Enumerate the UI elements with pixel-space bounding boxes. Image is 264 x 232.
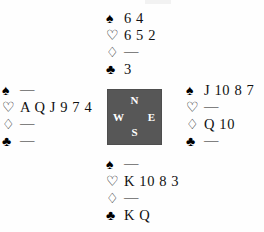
scan-artifact (145, 0, 171, 4)
spade-icon: ♠ (2, 84, 16, 98)
west-diamonds-row: ♢ — (2, 116, 92, 133)
east-diamonds-cards: Q 10 (200, 117, 235, 132)
east-diamonds-row: ♢ Q 10 (186, 116, 254, 133)
diamond-icon: ♢ (2, 118, 16, 132)
east-hearts-row: ♡ — (186, 99, 254, 116)
north-hearts-row: ♡ 6 5 2 (106, 27, 156, 44)
hand-south: ♠ — ♡ K 10 8 3 ♢ — ♣ K Q (106, 156, 179, 224)
south-hearts-cards: K 10 8 3 (120, 174, 179, 189)
north-clubs-row: ♣ 3 (106, 61, 156, 78)
north-clubs-cards: 3 (120, 62, 132, 77)
compass-label-east: E (148, 112, 155, 123)
east-clubs-cards: — (200, 133, 219, 148)
west-diamonds-cards: — (16, 116, 35, 131)
south-diamonds-row: ♢ — (106, 190, 179, 207)
west-spades-row: ♠ — (2, 82, 92, 99)
bridge-deal-diagram: ♠ 6 4 ♡ 6 5 2 ♢ — ♣ 3 ♠ — ♡ A Q J 9 7 4 … (0, 0, 264, 232)
north-spades-row: ♠ 6 4 (106, 10, 156, 27)
east-clubs-row: ♣ — (186, 133, 254, 150)
west-hearts-row: ♡ A Q J 9 7 4 (2, 99, 92, 116)
hand-east: ♠ J 10 8 7 ♡ — ♢ Q 10 ♣ — (186, 82, 254, 150)
north-hearts-cards: 6 5 2 (120, 28, 156, 43)
south-spades-cards: — (120, 156, 139, 171)
diamond-icon: ♢ (106, 46, 120, 60)
heart-icon: ♡ (106, 29, 120, 43)
south-diamonds-cards: — (120, 190, 139, 205)
west-clubs-row: ♣ — (2, 133, 92, 150)
compass-label-north: N (131, 95, 139, 106)
south-hearts-row: ♡ K 10 8 3 (106, 173, 179, 190)
north-diamonds-row: ♢ — (106, 44, 156, 61)
east-hearts-cards: — (200, 99, 219, 114)
north-spades-cards: 6 4 (120, 11, 144, 26)
heart-icon: ♡ (186, 101, 200, 115)
club-icon: ♣ (186, 135, 200, 149)
club-icon: ♣ (106, 63, 120, 77)
heart-icon: ♡ (106, 175, 120, 189)
heart-icon: ♡ (2, 101, 16, 115)
south-clubs-row: ♣ K Q (106, 207, 179, 224)
south-spades-row: ♠ — (106, 156, 179, 173)
north-diamonds-cards: — (120, 44, 139, 59)
compass-box: N W E S (107, 89, 162, 145)
compass-label-west: W (113, 112, 124, 123)
diamond-icon: ♢ (106, 192, 120, 206)
club-icon: ♣ (2, 135, 16, 149)
west-hearts-cards: A Q J 9 7 4 (16, 100, 92, 115)
east-spades-cards: J 10 8 7 (200, 83, 254, 98)
spade-icon: ♠ (106, 12, 120, 26)
hand-north: ♠ 6 4 ♡ 6 5 2 ♢ — ♣ 3 (106, 10, 156, 78)
west-clubs-cards: — (16, 133, 35, 148)
spade-icon: ♠ (106, 158, 120, 172)
east-spades-row: ♠ J 10 8 7 (186, 82, 254, 99)
hand-west: ♠ — ♡ A Q J 9 7 4 ♢ — ♣ — (2, 82, 92, 150)
spade-icon: ♠ (186, 84, 200, 98)
compass-label-south: S (131, 127, 137, 138)
west-spades-cards: — (16, 82, 35, 97)
club-icon: ♣ (106, 209, 120, 223)
diamond-icon: ♢ (186, 118, 200, 132)
south-clubs-cards: K Q (120, 208, 150, 223)
